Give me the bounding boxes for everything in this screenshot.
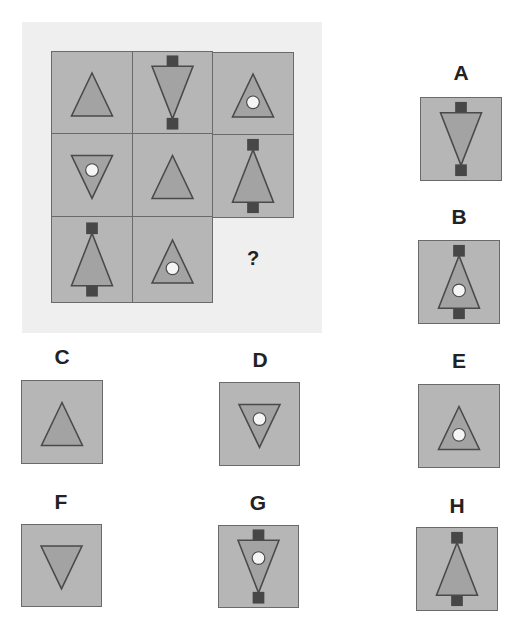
triangle-down-icon [441, 113, 482, 166]
option-label-h: H [437, 494, 477, 518]
triangle-up-icon [42, 402, 83, 445]
circle-icon [166, 262, 179, 275]
option-h[interactable] [416, 527, 498, 611]
figure-drawing [421, 98, 501, 180]
grid-cell-r1c0 [51, 133, 133, 217]
triangle-up-icon [437, 543, 478, 596]
grid-cell-r1c1 [132, 133, 213, 217]
triangle-up-icon [72, 233, 113, 286]
option-c[interactable] [21, 380, 103, 464]
option-label-b: B [439, 205, 479, 229]
figure-drawing [417, 528, 497, 610]
option-label-e: E [439, 349, 479, 373]
figure-drawing [133, 217, 212, 302]
circle-icon [453, 284, 466, 297]
option-label-f: F [41, 490, 81, 514]
circle-icon [453, 428, 466, 441]
figure-drawing [213, 53, 293, 134]
triangle-up-icon [72, 73, 113, 116]
figure-drawing [22, 525, 101, 606]
triangle-up-icon [233, 150, 274, 203]
figure-drawing [419, 241, 499, 323]
figure-drawing [52, 134, 132, 216]
figure-drawing [219, 526, 298, 607]
grid-cell-r0c1 [132, 51, 213, 134]
missing-cell: ? [212, 217, 294, 303]
option-g[interactable] [218, 525, 299, 608]
grid-cell-r2c1 [132, 216, 213, 303]
option-f[interactable] [21, 524, 102, 607]
figure-drawing [133, 52, 212, 133]
option-a[interactable] [420, 97, 502, 181]
figure-drawing [213, 135, 293, 217]
option-b[interactable] [418, 240, 500, 324]
triangle-down-icon [41, 546, 82, 589]
triangle-up-icon [439, 256, 480, 309]
question-mark: ? [212, 247, 294, 270]
figure-drawing [133, 134, 212, 216]
figure-drawing [52, 52, 132, 133]
circle-icon [86, 164, 99, 177]
circle-icon [253, 413, 266, 426]
option-label-a: A [441, 61, 481, 85]
option-d[interactable] [219, 382, 300, 466]
grid-cell-r1c2 [212, 134, 294, 218]
grid-cell-r0c2 [212, 52, 294, 135]
circle-icon [252, 552, 265, 565]
option-label-c: C [42, 345, 82, 369]
option-label-g: G [238, 491, 278, 515]
circle-icon [247, 96, 260, 109]
option-label-d: D [240, 348, 280, 372]
grid-cell-r2c0 [51, 216, 133, 303]
top-square-icon [253, 529, 265, 541]
figure-drawing [220, 383, 299, 465]
grid-cell-r0c0 [51, 51, 133, 134]
figure-drawing [52, 217, 132, 302]
triangle-down-icon [238, 540, 279, 593]
option-e[interactable] [418, 384, 500, 468]
figure-drawing [22, 381, 102, 463]
triangle-down-icon [152, 66, 193, 119]
triangle-up-icon [152, 155, 193, 198]
figure-drawing [419, 385, 499, 467]
